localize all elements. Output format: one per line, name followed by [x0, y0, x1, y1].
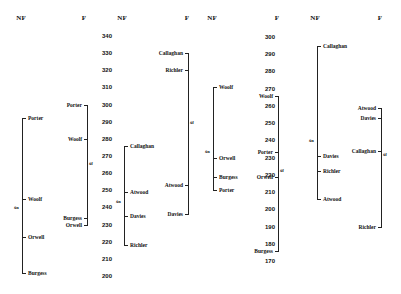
axis-tick-label: 200 [102, 273, 112, 279]
mean-marker-nf: x̄n [14, 205, 19, 210]
strip-line-nf-2 [124, 146, 125, 246]
strip-line-nf-4 [317, 46, 318, 200]
point-tick [185, 53, 189, 54]
dot-strip-chart: NF F NF F NF F NF F 34033032031030029028… [0, 0, 401, 294]
strip-line-f-2 [188, 53, 189, 215]
axis-tick-label: 270 [265, 86, 275, 92]
axis-tick-label: 250 [265, 120, 275, 126]
point-label: Porter [67, 102, 82, 108]
axis-tick-label: 260 [102, 170, 112, 176]
axis-tick-label: 320 [102, 67, 112, 73]
point-tick [317, 199, 321, 200]
point-label: Davies [323, 153, 339, 159]
point-label: Porter [28, 115, 43, 121]
point-label: Richler [130, 242, 147, 248]
mean-marker-f: x̄f [190, 119, 194, 124]
point-tick [185, 185, 189, 186]
point-tick [124, 192, 128, 193]
axis-tick-label: 340 [102, 33, 112, 39]
point-label: Orwell [219, 155, 235, 161]
point-label: Atwood [165, 182, 183, 188]
axis-tick-label: 190 [265, 224, 275, 230]
point-label: Woolf [28, 196, 42, 202]
mean-marker-nf: x̄n [116, 198, 121, 203]
point-label: Davies [130, 213, 146, 219]
point-tick [185, 70, 189, 71]
axis-tick-label: 210 [102, 256, 112, 262]
mean-marker-f: x̄f [280, 167, 284, 172]
axis-tick-label: 300 [102, 102, 112, 108]
point-label: Atwood [323, 196, 341, 202]
point-label: Davies [167, 211, 183, 217]
point-tick [317, 46, 321, 47]
strip-line-f-4 [381, 108, 382, 228]
mean-marker-f: x̄f [383, 152, 387, 157]
point-tick [124, 245, 128, 246]
mean-marker-nf: x̄n [205, 148, 210, 153]
point-tick [22, 237, 26, 238]
point-tick [124, 146, 128, 147]
point-tick [378, 108, 382, 109]
point-label: Burgess [63, 215, 82, 221]
axis-tick-label: 280 [265, 68, 275, 74]
point-tick [317, 156, 321, 157]
point-label: Porter [258, 149, 273, 155]
point-tick [22, 273, 26, 274]
point-label: Orwell [66, 222, 82, 228]
axis-tick-label: 230 [102, 222, 112, 228]
axis-tick-label: 330 [102, 50, 112, 56]
point-label: Woolf [259, 93, 273, 99]
strip-line-f-3 [278, 96, 279, 252]
strip-line-nf-1 [22, 118, 23, 273]
axis-tick-label: 270 [102, 153, 112, 159]
point-tick [213, 177, 217, 178]
point-tick [84, 105, 88, 106]
point-label: Burgess [254, 248, 273, 254]
header-f-4: F [378, 14, 382, 22]
point-label: Richler [323, 168, 340, 174]
point-label: Atwood [358, 105, 376, 111]
axis-tick-label: 240 [265, 137, 275, 143]
point-tick [84, 139, 88, 140]
point-tick [84, 218, 88, 219]
point-label: Callaghan [130, 143, 154, 149]
point-label: Orwell [28, 234, 44, 240]
point-label: Orwell [257, 174, 273, 180]
point-tick [275, 177, 279, 178]
axis-tick-label: 250 [102, 187, 112, 193]
point-tick [213, 158, 217, 159]
point-label: Woolf [219, 84, 233, 90]
point-tick [378, 151, 382, 152]
strip-line-f-1 [87, 105, 88, 226]
point-tick [124, 216, 128, 217]
mean-marker-f: x̄f [89, 160, 93, 165]
point-tick [317, 171, 321, 172]
point-tick [275, 152, 279, 153]
point-tick [378, 227, 382, 228]
axis-tick-label: 300 [265, 34, 275, 40]
point-tick [84, 225, 88, 226]
point-label: Callaghan [159, 50, 183, 56]
point-label: Burgess [219, 174, 238, 180]
axis-tick-label: 170 [265, 258, 275, 264]
point-tick [22, 118, 26, 119]
point-tick [378, 118, 382, 119]
header-nf-2: NF [117, 14, 126, 22]
point-label: Woolf [68, 136, 82, 142]
axis-tick-label: 280 [102, 136, 112, 142]
point-label: Richler [166, 67, 183, 73]
mean-marker-nf: x̄n [309, 138, 314, 143]
point-tick [213, 190, 217, 191]
axis-tick-label: 230 [265, 155, 275, 161]
axis-tick-label: 220 [102, 239, 112, 245]
axis-tick-label: 200 [265, 206, 275, 212]
axis-tick-label: 180 [265, 241, 275, 247]
axis-tick-label: 240 [102, 204, 112, 210]
axis-tick-label: 260 [265, 103, 275, 109]
header-nf-3: NF [207, 14, 216, 22]
point-label: Porter [219, 187, 234, 193]
header-nf-4: NF [310, 14, 319, 22]
header-f-2: F [185, 14, 189, 22]
header-f-1: F [82, 14, 86, 22]
point-label: Callaghan [323, 43, 347, 49]
